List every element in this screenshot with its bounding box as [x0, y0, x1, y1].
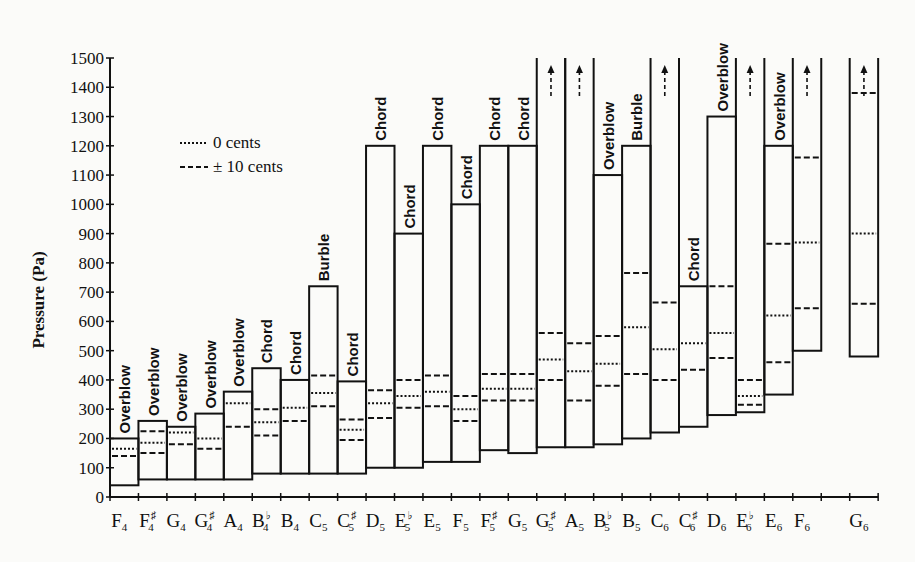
- note-bar-G♯4: Overblow: [195, 340, 223, 480]
- note-bar-B♭4: Chord: [252, 319, 280, 474]
- y-tick-label: 800: [79, 254, 105, 273]
- note-bar-G6: [850, 58, 878, 357]
- note-bar-B5: Burble: [622, 93, 650, 438]
- arrow-head-icon: [747, 65, 754, 73]
- bar-upper-label: Chord: [344, 332, 361, 376]
- bar-outline: [480, 146, 508, 450]
- x-tick-label: C♯5: [337, 509, 357, 533]
- x-tick-label: F4: [111, 510, 128, 533]
- y-tick-label: 900: [79, 225, 105, 244]
- bar-upper-label: Chord: [429, 97, 446, 141]
- note-bar-C♯6: Chord: [679, 237, 707, 427]
- y-tick-label: 700: [79, 283, 105, 302]
- y-tick-label: 1400: [70, 78, 104, 97]
- bar-outline: [565, 58, 593, 447]
- bar-upper-label: Chord: [372, 97, 389, 141]
- y-tick-label: 1100: [71, 166, 104, 185]
- arrow-head-icon: [804, 65, 811, 73]
- bar-upper-label: Overblow: [173, 353, 190, 422]
- x-tick-label: G4: [167, 510, 187, 533]
- bar-upper-label: Overblow: [145, 347, 162, 416]
- y-tick-label: 200: [79, 429, 105, 448]
- note-bar-F♯4: Overblow: [138, 347, 166, 479]
- bar-outline: [622, 146, 650, 439]
- y-tick-label: 1300: [70, 108, 104, 127]
- note-bar-B♭5: Overblow: [594, 101, 622, 444]
- bar-upper-label: Chord: [685, 237, 702, 281]
- x-tick-label: C5: [309, 510, 328, 533]
- note-bar-F4: Overblow: [110, 365, 138, 486]
- pressure-range-chart: 0100200300400500600700800900100011001200…: [0, 0, 915, 562]
- bar-upper-label: Overblow: [230, 318, 247, 387]
- bar-outline: [224, 392, 252, 480]
- bar-outline: [167, 427, 195, 480]
- y-axis: 0100200300400500600700800900100011001200…: [70, 49, 114, 507]
- note-bar-F6: [793, 58, 821, 351]
- legend-label: ± 10 cents: [213, 157, 283, 176]
- bar-upper-label: Overblow: [202, 340, 219, 409]
- bar-upper-label: Burble: [628, 93, 645, 141]
- y-tick-label: 1000: [70, 195, 104, 214]
- note-bar-A4: Overblow: [224, 318, 252, 479]
- x-tick-label: F♯5: [481, 509, 499, 533]
- x-tick-label: F5: [453, 510, 470, 533]
- y-tick-label: 400: [79, 371, 105, 390]
- bar-outline: [508, 146, 536, 453]
- bar-upper-label: Overblow: [600, 101, 617, 170]
- bar-outline: [281, 380, 309, 474]
- note-bar-B4: Chord: [281, 331, 309, 474]
- x-tick-label: B♭4: [252, 509, 271, 533]
- x-tick-label: D6: [707, 510, 727, 533]
- bar-outline: [594, 175, 622, 444]
- legend-label: 0 cents: [213, 133, 261, 152]
- note-bar-C♯5: Chord: [338, 332, 366, 473]
- bar-outline: [423, 146, 451, 462]
- x-tick-label: B♭5: [593, 509, 612, 533]
- y-tick-label: 300: [79, 400, 105, 419]
- y-tick-label: 500: [79, 342, 105, 361]
- note-bar-E♭5: Chord: [395, 184, 423, 467]
- y-axis-title: Pressure (Pa): [29, 251, 48, 348]
- note-bar-A5: [565, 58, 593, 447]
- bar-upper-label: Overblow: [714, 43, 731, 112]
- bar-outline: [252, 368, 280, 473]
- bar-outline: [395, 234, 423, 468]
- bar-outline: [366, 146, 394, 468]
- note-bar-E5: Chord: [423, 97, 451, 462]
- note-bar-G5: Chord: [508, 97, 536, 453]
- bar-outline: [651, 58, 679, 433]
- note-bar-G♯5: [537, 58, 565, 447]
- note-bar-E♭6: [736, 58, 764, 412]
- note-bar-E6: Overblow: [764, 72, 792, 394]
- bar-outline: [736, 58, 764, 412]
- note-bar-D5: Chord: [366, 97, 394, 468]
- bar-upper-label: Chord: [515, 97, 532, 141]
- x-tick-label: D5: [366, 510, 386, 533]
- bar-outline: [451, 204, 479, 462]
- bar-outline: [537, 58, 565, 447]
- x-tick-label: B4: [281, 510, 300, 533]
- y-tick-label: 1200: [70, 137, 104, 156]
- x-tick-label: E5: [424, 510, 442, 533]
- x-tick-label: C♯6: [679, 509, 699, 533]
- bar-upper-label: Chord: [486, 97, 503, 141]
- bar-outline: [138, 421, 166, 480]
- note-bars: OverblowOverblowOverblowOverblowOverblow…: [110, 43, 878, 485]
- x-tick-label: B5: [622, 510, 641, 533]
- y-tick-label: 0: [96, 488, 105, 507]
- x-tick-label: G♯5: [536, 509, 557, 533]
- legend: 0 cents± 10 cents: [180, 133, 283, 176]
- x-tick-label: A4: [223, 510, 243, 533]
- note-bar-G4: Overblow: [167, 353, 195, 479]
- bar-upper-label: Overblow: [116, 365, 133, 434]
- note-bar-D6: Overblow: [707, 43, 735, 415]
- note-bar-F5: Chord: [451, 155, 479, 462]
- x-tick-label: G♯4: [194, 509, 215, 533]
- bar-outline: [707, 117, 735, 416]
- x-tick-label: E♭5: [395, 509, 413, 533]
- bar-outline: [110, 438, 138, 485]
- bar-outline: [850, 58, 878, 357]
- bar-upper-label: Chord: [258, 319, 275, 363]
- x-tick-label: G6: [849, 510, 869, 533]
- x-tick-label: E6: [765, 510, 783, 533]
